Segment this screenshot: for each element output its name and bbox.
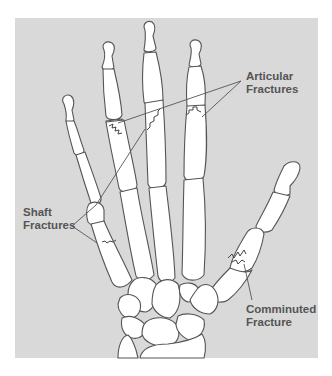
middle-finger: [143, 21, 164, 105]
label-articular-fractures: Articular Fractures: [246, 70, 298, 96]
label-line: Articular: [246, 70, 298, 83]
label-line: Fractures: [23, 219, 75, 232]
label-line: Shaft: [23, 206, 75, 219]
label-line: Fracture: [246, 316, 316, 329]
label-comminuted-fracture: Comminuted Fracture: [246, 303, 316, 329]
label-shaft-fractures: Shaft Fractures: [23, 206, 75, 232]
label-line: Fractures: [246, 83, 298, 96]
label-line: Comminuted: [246, 303, 316, 316]
thumb: [208, 162, 300, 302]
